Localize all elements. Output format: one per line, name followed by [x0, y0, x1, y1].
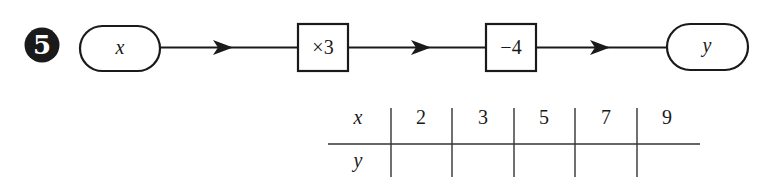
problem-number-badge: 5	[25, 28, 60, 63]
arrow-1	[160, 40, 298, 55]
operation-box-subtract: −4	[486, 24, 536, 71]
output-node: y	[667, 24, 748, 70]
function-machine-diagram: 5 x ×3 −4 y	[0, 0, 763, 185]
operation-label: ×3	[312, 36, 333, 58]
values-table: x y 2 3 5 7 9	[328, 106, 700, 177]
row-header-y: y	[352, 149, 363, 172]
arrow-3	[536, 40, 667, 55]
x-value-cell: 3	[478, 106, 488, 128]
output-label: y	[701, 34, 712, 57]
row-header-x: x	[353, 106, 363, 128]
x-value-cell: 9	[662, 106, 672, 128]
arrow-2	[348, 40, 486, 55]
operation-box-multiply: ×3	[298, 24, 348, 71]
input-label: x	[115, 36, 125, 58]
input-node: x	[80, 26, 160, 71]
x-value-cell: 2	[416, 106, 426, 128]
problem-number: 5	[33, 30, 51, 60]
x-value-cell: 5	[539, 106, 549, 128]
x-value-cell: 7	[601, 106, 611, 128]
operation-label: −4	[500, 36, 521, 58]
